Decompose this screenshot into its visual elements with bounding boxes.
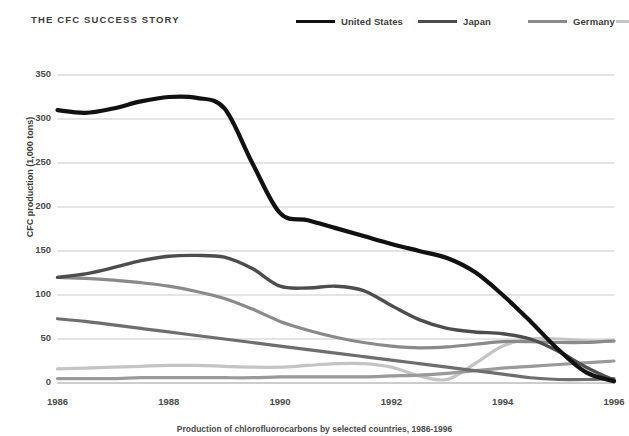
chart-caption: Production of chlorofluorocarbons by sel… — [0, 424, 629, 434]
y-tick-label: 200 — [3, 200, 51, 211]
x-tick-label: 1990 — [270, 396, 291, 407]
y-tick-label: 150 — [3, 244, 51, 255]
x-tick-label: 1986 — [47, 396, 68, 407]
chart-canvas — [0, 0, 629, 436]
series-line-france — [58, 338, 615, 380]
y-tick-label: 350 — [3, 68, 51, 79]
y-tick-label: 100 — [3, 288, 51, 299]
x-tick-label: 1994 — [492, 396, 513, 407]
x-tick-label: 1996 — [603, 396, 624, 407]
x-tick-label: 1988 — [158, 396, 179, 407]
y-tick-label: 50 — [3, 332, 51, 343]
y-axis-ticks: 050100150200250300350 — [0, 0, 51, 436]
series-line-japan — [58, 255, 615, 380]
line-chart: CFC production (1,000 tons) 050100150200… — [0, 0, 629, 436]
x-tick-label: 1992 — [381, 396, 402, 407]
y-tick-label: 250 — [3, 156, 51, 167]
y-tick-label: 0 — [3, 376, 51, 387]
y-tick-label: 300 — [3, 112, 51, 123]
series-line-china — [58, 319, 615, 380]
